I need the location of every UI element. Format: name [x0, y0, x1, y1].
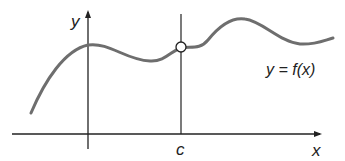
point-c-label: c	[176, 140, 185, 159]
function-graph: y x c y = f(x)	[0, 0, 345, 161]
y-axis-label: y	[70, 12, 81, 31]
x-axis-label: x	[311, 141, 321, 160]
curve-label: y = f(x)	[265, 61, 315, 78]
open-circle-marker	[176, 42, 186, 52]
